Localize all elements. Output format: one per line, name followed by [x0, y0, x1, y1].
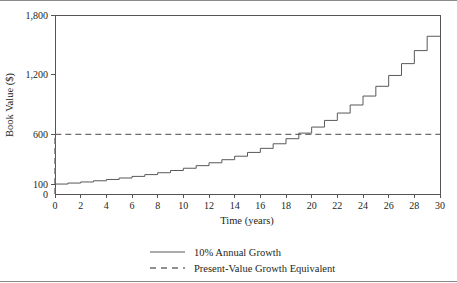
- x-tick-label: 30: [435, 200, 445, 211]
- x-tick-label: 24: [358, 200, 368, 211]
- x-tick-label: 0: [53, 200, 58, 211]
- series-group: [55, 36, 440, 194]
- x-tick-label: 6: [130, 200, 135, 211]
- x-tick-label: 10: [178, 200, 188, 211]
- legend: 10% Annual Growth Present-Value Growth E…: [150, 247, 335, 274]
- x-tick-label: 12: [204, 200, 214, 211]
- y-tick-label: 600: [33, 129, 48, 140]
- x-tick-label: 4: [104, 200, 109, 211]
- x-axis-title: Time (years): [220, 215, 274, 227]
- y-axis-tick-labels: 01006001,2001,800: [26, 10, 49, 200]
- x-tick-label: 26: [384, 200, 394, 211]
- present-value-reference-line: [55, 134, 440, 194]
- x-tick-label: 16: [255, 200, 265, 211]
- x-tick-label: 28: [409, 200, 419, 211]
- x-tick-label: 2: [78, 200, 83, 211]
- legend-label-annual-growth: 10% Annual Growth: [194, 247, 282, 258]
- x-axis-tick-labels: 024681012141618202224262830: [53, 200, 446, 211]
- x-tick-label: 20: [307, 200, 317, 211]
- figure-container: 024681012141618202224262830 01006001,200…: [0, 0, 457, 283]
- x-tick-label: 14: [230, 200, 240, 211]
- x-tick-label: 22: [332, 200, 342, 211]
- y-axis-title: Book Value ($): [4, 73, 16, 137]
- y-tick-label: 0: [43, 189, 48, 200]
- x-tick-label: 8: [155, 200, 160, 211]
- annual-growth-step-line: [55, 36, 440, 184]
- plot-frame: [55, 15, 440, 194]
- y-tick-label: 100: [33, 179, 48, 190]
- book-value-step-chart: 024681012141618202224262830 01006001,200…: [0, 0, 457, 283]
- x-tick-label: 18: [281, 200, 291, 211]
- x-axis-ticks: [55, 194, 440, 198]
- y-tick-label: 1,200: [26, 69, 49, 80]
- legend-label-present-value: Present-Value Growth Equivalent: [194, 263, 335, 274]
- y-tick-label: 1,800: [26, 10, 49, 21]
